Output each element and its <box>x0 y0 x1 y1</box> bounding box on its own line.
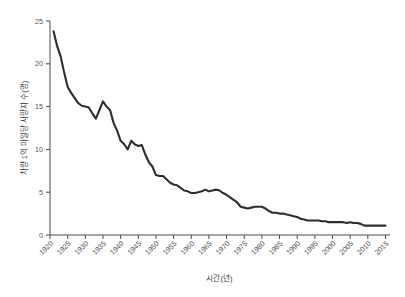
chart-axes <box>50 21 390 235</box>
y-tick-label: 10 <box>35 145 43 154</box>
x-tick-label: 2015 <box>373 239 391 257</box>
x-tick-label: 1985 <box>267 239 285 257</box>
y-axis-title: 차량 1억 마일당 사망자 수(명) <box>19 80 29 175</box>
x-tick-label: 1995 <box>302 239 320 257</box>
chart-figure: 0510152025 19201925193019351940194519501… <box>0 0 405 297</box>
y-tick-label: 25 <box>35 17 43 26</box>
x-tick-label: 1930 <box>73 239 91 257</box>
x-tick-label: 2005 <box>337 239 355 257</box>
series-polyline <box>54 31 386 225</box>
x-tick-label: 1925 <box>55 239 73 257</box>
x-tick-label: 1950 <box>143 239 161 257</box>
x-tick-label: 1980 <box>249 239 267 257</box>
x-tick-label: 1975 <box>231 239 249 257</box>
x-tick-label: 1955 <box>161 239 179 257</box>
y-tick-label: 20 <box>35 59 43 68</box>
x-tick-label: 2010 <box>355 239 373 257</box>
x-tick-label: 1970 <box>214 239 232 257</box>
data-series-line <box>54 31 386 225</box>
y-axis-ticks: 0510152025 <box>35 17 50 240</box>
y-tick-label: 15 <box>35 102 43 111</box>
x-tick-label: 1920 <box>37 239 55 257</box>
y-tick-label: 5 <box>39 188 43 197</box>
x-tick-label: 1940 <box>108 239 126 257</box>
x-tick-label: 1990 <box>284 239 302 257</box>
line-chart-canvas: 0510152025 19201925193019351940194519501… <box>0 0 405 297</box>
x-tick-label: 1960 <box>178 239 196 257</box>
y-tick-label: 0 <box>39 231 43 240</box>
x-tick-label: 1945 <box>126 239 144 257</box>
x-tick-label: 1965 <box>196 239 214 257</box>
x-tick-label: 1935 <box>90 239 108 257</box>
x-axis-ticks: 1920192519301935194019451950195519601965… <box>37 235 390 257</box>
x-axis-title: 시간(년) <box>206 273 233 283</box>
x-tick-label: 2000 <box>320 239 338 257</box>
